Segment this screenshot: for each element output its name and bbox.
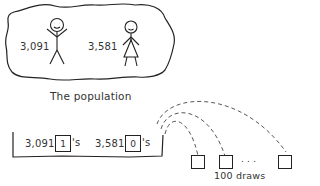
- population-label: The population: [50, 90, 132, 102]
- zeros-suffix: 's: [142, 137, 150, 148]
- draw-arcs: [157, 101, 286, 156]
- ones-ticket: 1: [55, 135, 71, 152]
- ones-suffix: 's: [72, 137, 80, 148]
- male-figure-icon: [47, 19, 67, 65]
- draw-box: [191, 155, 205, 169]
- male-count: 3,091: [20, 41, 50, 52]
- female-figure-icon: [123, 21, 139, 66]
- draw-ellipsis: . . .: [241, 154, 256, 164]
- draws-label: 100 draws: [214, 170, 265, 181]
- ones-count: 3,091: [25, 138, 55, 149]
- zeros-count: 3,581: [95, 138, 125, 149]
- draw-box: [219, 155, 233, 169]
- female-count: 3,581: [88, 41, 118, 52]
- zeros-ticket: 0: [125, 135, 141, 152]
- draw-box: [278, 155, 292, 169]
